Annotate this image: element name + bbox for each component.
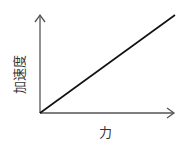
- data-line: [40, 15, 175, 113]
- y-axis-label: 加速度: [9, 55, 28, 94]
- x-axis-label: 力: [99, 122, 112, 141]
- plot-area: [0, 0, 188, 151]
